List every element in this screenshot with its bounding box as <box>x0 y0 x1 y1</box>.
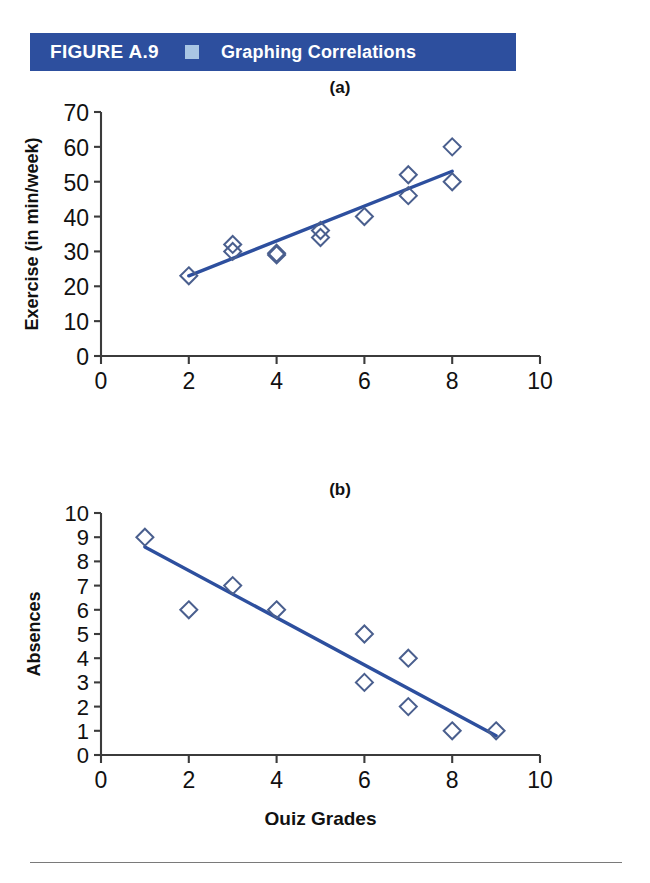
data-point-marker <box>356 626 373 643</box>
data-point-marker <box>356 674 373 691</box>
x-tick-label: 4 <box>270 368 283 394</box>
y-tick-label: 7 <box>77 574 89 599</box>
x-axis-title: Quiz Grades <box>265 808 377 825</box>
trendline <box>189 171 452 276</box>
y-tick-label: 50 <box>63 170 89 196</box>
panel-b-plot-area: 0123456789100246810Quiz GradesAbsences <box>0 480 650 825</box>
y-axis-title: Exercise (in min/week) <box>22 137 42 330</box>
y-tick-label: 9 <box>77 525 89 550</box>
y-tick-label: 6 <box>77 598 89 623</box>
panel-a-plot-area: 0102030405060700246810Ratings of Body Im… <box>0 78 650 398</box>
y-tick-label: 10 <box>63 309 89 335</box>
x-tick-label: 6 <box>358 368 371 394</box>
x-tick-label: 2 <box>182 368 195 394</box>
x-tick-label: 6 <box>358 767 371 793</box>
x-tick-label: 10 <box>527 767 553 793</box>
x-tick-label: 10 <box>527 368 553 394</box>
x-tick-label: 8 <box>446 368 459 394</box>
trendline <box>145 547 496 736</box>
scatter-plot-b: 0123456789100246810Quiz GradesAbsences <box>0 480 650 825</box>
y-tick-label: 60 <box>63 135 89 161</box>
x-tick-label: 8 <box>446 767 459 793</box>
data-point-marker <box>356 208 373 225</box>
y-tick-label: 40 <box>63 205 89 231</box>
y-tick-label: 1 <box>77 719 89 744</box>
y-tick-label: 3 <box>77 670 89 695</box>
data-point-marker <box>400 650 417 667</box>
x-tick-label: 2 <box>182 767 195 793</box>
y-tick-label: 20 <box>63 274 89 300</box>
figure-number-label: FIGURE A.9 <box>50 41 159 63</box>
y-tick-label: 0 <box>76 344 89 370</box>
bottom-divider-rule <box>30 862 622 863</box>
data-point-marker <box>444 173 461 190</box>
y-tick-label: 5 <box>77 622 89 647</box>
y-tick-label: 8 <box>77 549 89 574</box>
data-point-marker <box>444 722 461 739</box>
data-point-marker <box>400 698 417 715</box>
data-point-marker <box>312 229 329 246</box>
y-tick-label: 4 <box>77 646 89 671</box>
y-tick-label: 30 <box>63 239 89 265</box>
data-point-marker <box>400 166 417 183</box>
y-tick-label: 2 <box>77 695 89 720</box>
figure-title-label: Graphing Correlations <box>221 42 416 63</box>
data-point-marker <box>444 138 461 155</box>
data-point-marker <box>224 236 241 253</box>
square-marker-icon <box>185 45 199 59</box>
x-tick-label: 0 <box>95 368 108 394</box>
y-axis-title: Absences <box>24 591 44 676</box>
data-point-marker <box>136 529 153 546</box>
x-tick-label: 0 <box>95 767 108 793</box>
x-tick-label: 4 <box>270 767 283 793</box>
chart-panel-a: (a) 0102030405060700246810Ratings of Bod… <box>0 78 650 418</box>
y-tick-label: 0 <box>77 743 89 768</box>
chart-panel-b: (b) 0123456789100246810Quiz GradesAbsenc… <box>0 480 650 835</box>
y-tick-label: 10 <box>65 501 89 526</box>
data-point-marker <box>180 601 197 618</box>
figure-header-banner: FIGURE A.9 Graphing Correlations <box>30 33 516 71</box>
scatter-plot-a: 0102030405060700246810Ratings of Body Im… <box>0 78 650 398</box>
y-tick-label: 70 <box>63 100 89 126</box>
